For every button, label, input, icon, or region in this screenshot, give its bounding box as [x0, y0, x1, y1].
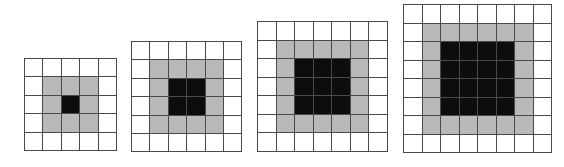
- cell-gray: [206, 97, 224, 115]
- cell-white: [295, 133, 314, 152]
- cell-black: [478, 61, 497, 80]
- cell-white: [187, 42, 205, 60]
- cell-gray: [423, 42, 442, 61]
- cell-white: [534, 79, 553, 98]
- cell-white: [441, 135, 460, 154]
- cell-white: [224, 134, 242, 152]
- cell-gray: [277, 115, 296, 134]
- grid-5x5: [24, 58, 117, 151]
- cell-gray: [295, 115, 314, 134]
- cell-gray: [515, 24, 534, 43]
- cell-white: [132, 42, 150, 60]
- cell-black: [441, 98, 460, 117]
- cell-white: [369, 41, 388, 60]
- cell-gray: [206, 60, 224, 78]
- cell-white: [534, 61, 553, 80]
- cell-black: [497, 98, 516, 117]
- cell-black: [460, 98, 479, 117]
- cell-gray: [351, 59, 370, 78]
- cell-black: [441, 42, 460, 61]
- cell-gray: [43, 114, 61, 132]
- cell-gray: [423, 98, 442, 117]
- cell-black: [314, 59, 333, 78]
- cell-black: [460, 79, 479, 98]
- cell-black: [497, 79, 516, 98]
- cell-white: [277, 22, 296, 41]
- cell-white: [460, 135, 479, 154]
- cell-black: [332, 78, 351, 97]
- cell-gray: [423, 116, 442, 135]
- cell-gray: [423, 79, 442, 98]
- cell-black: [332, 96, 351, 115]
- cell-white: [295, 22, 314, 41]
- cell-gray: [351, 115, 370, 134]
- cell-white: [206, 42, 224, 60]
- cell-white: [62, 59, 80, 77]
- cell-white: [369, 59, 388, 78]
- cell-white: [441, 5, 460, 24]
- cell-black: [497, 42, 516, 61]
- cell-white: [534, 42, 553, 61]
- cell-white: [99, 133, 117, 151]
- cell-white: [534, 116, 553, 135]
- cell-white: [80, 59, 98, 77]
- cell-white: [132, 97, 150, 115]
- cell-gray: [80, 96, 98, 114]
- cell-white: [369, 78, 388, 97]
- cell-black: [187, 97, 205, 115]
- cell-gray: [314, 115, 333, 134]
- cell-white: [314, 22, 333, 41]
- cell-black: [441, 79, 460, 98]
- cell-white: [224, 116, 242, 134]
- cell-white: [43, 59, 61, 77]
- cell-white: [515, 135, 534, 154]
- cell-white: [314, 133, 333, 152]
- cell-white: [62, 133, 80, 151]
- cell-white: [258, 41, 277, 60]
- cell-black: [460, 42, 479, 61]
- cell-white: [258, 133, 277, 152]
- cell-white: [404, 135, 423, 154]
- cell-gray: [187, 60, 205, 78]
- cell-white: [369, 133, 388, 152]
- cell-gray: [515, 116, 534, 135]
- cell-white: [25, 96, 43, 114]
- cell-white: [369, 96, 388, 115]
- cell-gray: [423, 61, 442, 80]
- cell-white: [497, 135, 516, 154]
- cell-gray: [351, 41, 370, 60]
- cell-gray: [441, 24, 460, 43]
- cell-gray: [277, 96, 296, 115]
- cell-white: [404, 5, 423, 24]
- cell-gray: [478, 24, 497, 43]
- cell-gray: [441, 116, 460, 135]
- cell-white: [224, 97, 242, 115]
- cell-black: [497, 61, 516, 80]
- cell-white: [224, 79, 242, 97]
- cell-white: [150, 42, 168, 60]
- grid-7x7: [257, 21, 388, 152]
- cell-white: [351, 133, 370, 152]
- cell-black: [169, 97, 187, 115]
- cell-white: [404, 61, 423, 80]
- cell-white: [224, 60, 242, 78]
- cell-white: [332, 133, 351, 152]
- cell-white: [206, 134, 224, 152]
- cell-gray: [314, 41, 333, 60]
- cell-white: [99, 114, 117, 132]
- cell-gray: [150, 116, 168, 134]
- cell-black: [478, 42, 497, 61]
- cell-white: [534, 5, 553, 24]
- cell-white: [25, 59, 43, 77]
- grid-6x6: [131, 41, 242, 152]
- cell-gray: [169, 116, 187, 134]
- cell-gray: [43, 77, 61, 95]
- cell-gray: [187, 116, 205, 134]
- cell-gray: [497, 24, 516, 43]
- cell-black: [187, 79, 205, 97]
- cell-gray: [277, 59, 296, 78]
- grid-8x8: [403, 4, 552, 153]
- cell-black: [314, 78, 333, 97]
- cell-black: [295, 78, 314, 97]
- cell-black: [62, 96, 80, 114]
